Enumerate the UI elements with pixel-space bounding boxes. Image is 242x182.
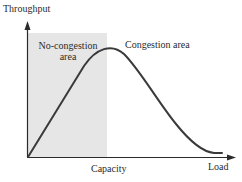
capacity-label: Capacity: [91, 163, 127, 174]
congestion-area-label: Congestion area: [125, 39, 190, 50]
y-axis-arrow-icon: [25, 21, 31, 30]
x-axis-label: Load: [208, 161, 229, 172]
throughput-load-diagram: Throughput No-congestion area Congestion…: [0, 0, 242, 182]
diagram-graphic: [0, 0, 242, 182]
no-congestion-label: No-congestion area: [30, 40, 106, 62]
no-congestion-label-line2: area: [30, 51, 106, 62]
x-axis-arrow-icon: [227, 155, 236, 161]
no-congestion-label-line1: No-congestion: [30, 40, 106, 51]
y-axis-label: Throughput: [3, 3, 50, 14]
